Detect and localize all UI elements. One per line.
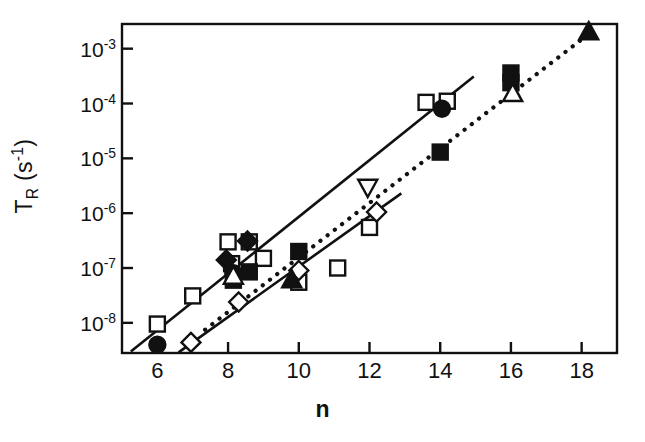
x-axis-tick-label: 6 [151, 358, 163, 384]
plot-canvas [0, 0, 645, 442]
data-point-marker [242, 264, 257, 279]
x-axis-tick-label: 18 [569, 358, 593, 384]
x-axis-tick-label: 10 [287, 358, 311, 384]
data-point-marker [419, 95, 434, 110]
trend-line-upper-solid-fit [131, 77, 474, 352]
series-open-triangle-down [358, 180, 377, 197]
data-point-marker [291, 244, 306, 259]
data-point-marker [229, 292, 248, 311]
data-point-marker [358, 180, 377, 197]
data-point-marker [150, 317, 165, 332]
data-point-marker [256, 251, 271, 266]
data-point-marker [149, 337, 165, 353]
data-point-marker [433, 145, 448, 160]
x-axis-tick-label: 16 [499, 358, 523, 384]
series-filled-circle [149, 101, 450, 353]
trend-line-dotted-fit [205, 30, 594, 330]
data-point-marker [221, 234, 236, 249]
chart-figure: TR (s-1) 10-310-410-510-610-710-8 681012… [0, 0, 645, 442]
data-point-marker [185, 288, 200, 303]
x-axis-tick-label: 14 [428, 358, 452, 384]
x-axis-tick-label: 12 [357, 358, 381, 384]
data-point-marker [434, 101, 450, 117]
x-axis-label: n [0, 396, 645, 423]
data-point-marker [362, 220, 377, 235]
data-point-marker [330, 261, 345, 276]
x-axis-tick-label: 8 [222, 358, 234, 384]
